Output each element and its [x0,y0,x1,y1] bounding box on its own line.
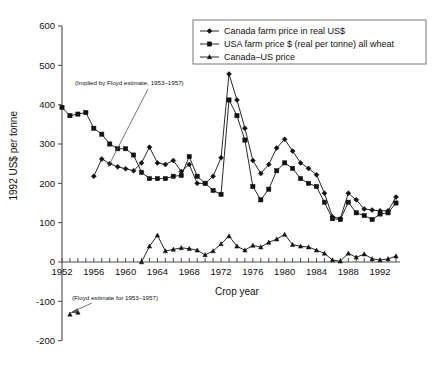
data-point-square [298,176,302,180]
data-point-diamond [147,145,152,150]
x-axis-tick-label: 1988 [338,266,359,277]
data-point-square [108,142,112,146]
data-point-triangle [251,243,255,247]
data-point-square [338,217,342,221]
data-point-diamond [227,71,232,76]
data-point-diamond [290,149,295,154]
chart-legend: Canada farm price in real US$USA farm pr… [193,20,426,64]
data-point-square [60,105,64,109]
series-2 [60,98,398,222]
y-axis-tick-label: 100 [39,217,55,228]
data-point-triangle [203,253,207,257]
data-point-square [100,132,104,136]
data-point-diamond [242,126,247,131]
data-point-square [219,192,223,196]
data-point-square [139,170,143,174]
data-point-triangle [346,251,350,255]
y-axis-tick-label: 400 [39,99,55,110]
x-axis-tick-label: 1952 [51,266,72,277]
data-point-triangle [362,252,366,256]
annotation-implied-floyd: (Implied by Floyd estimate, 1953–1957) [75,79,184,86]
x-axis-tick-label: 1992 [370,266,391,277]
data-point-square [362,213,366,217]
data-point-triangle [155,233,159,237]
data-point-triangle [394,254,398,258]
y-axis-tick-label: 500 [39,60,55,71]
y-axis-tick-label: -200 [36,335,55,346]
data-point-square [346,200,350,204]
data-point-square [155,176,159,180]
data-point-diamond [163,162,168,167]
data-point-square [123,147,127,151]
data-point-diamond [394,195,399,200]
data-point-diamond [123,166,128,171]
data-point-diamond [91,174,96,179]
annotation-leader-line [108,89,148,167]
data-point-square [76,112,80,116]
legend-label-3: Canada–US price [224,52,295,62]
data-point-square [84,110,88,114]
data-point-square [259,198,263,202]
legend-label-2: USA farm price $ (real per tonne) all wh… [224,39,395,49]
x-axis-tick-label: 1960 [115,266,136,277]
data-point-square [275,169,279,173]
data-point-square [306,181,310,185]
x-axis-tick-label: 1968 [179,266,200,277]
data-point-triangle [275,237,279,241]
data-point-diamond [155,160,160,165]
data-point-diamond [234,97,239,102]
series-1 [91,71,398,221]
data-point-square [68,114,72,118]
data-point-square [211,188,215,192]
x-axis-tick-label: 1964 [147,266,168,277]
data-point-triangle [282,232,286,236]
x-axis-tick-label: 1956 [83,266,104,277]
data-point-square [354,211,358,215]
data-point-triangle [227,234,231,238]
data-point-square [171,174,175,178]
annotation-arrow-head [70,308,78,313]
data-point-square [243,138,247,142]
data-point-square [322,200,326,204]
x-axis-title: Crop year [215,286,260,297]
price-comparison-chart: 6005004003002001000-100-2001992 US$ per … [0,0,446,367]
series-line [94,74,396,219]
data-point-square [207,42,211,46]
data-point-square [163,176,167,180]
data-point-triangle [243,248,247,252]
annotation-arrow [70,303,92,313]
x-axis-tick-label: 1972 [210,266,231,277]
data-point-triangle [370,257,374,261]
data-point-square [330,217,334,221]
data-point-square [131,153,135,157]
data-point-square [386,211,390,215]
data-point-square [227,98,231,102]
data-point-diamond [195,181,200,186]
data-point-diamond [370,208,375,213]
y-axis-title: 1992 US$ per tonne [8,111,19,201]
data-point-square [267,187,271,191]
annotation-floyd-estimate: (Floyd estimate for 1953–1957) [72,294,158,301]
data-point-square [179,173,183,177]
data-point-diamond [99,156,104,161]
data-point-square [203,181,207,185]
data-point-diamond [322,191,327,196]
data-point-square [394,201,398,205]
data-point-square [370,217,374,221]
y-axis-tick-label: 600 [39,20,55,31]
data-point-diamond [250,158,255,163]
data-point-square [283,161,287,165]
y-axis-tick-label: -100 [36,296,55,307]
data-point-square [290,166,294,170]
y-axis-tick-label: 200 [39,178,55,189]
data-point-square [147,176,151,180]
data-point-diamond [115,164,120,169]
x-axis-tick-label: 1984 [306,266,327,277]
chart-container: 6005004003002001000-100-2001992 US$ per … [0,0,446,367]
y-axis-tick-label: 300 [39,138,55,149]
data-point-square [187,154,191,158]
data-point-square [251,184,255,188]
x-axis-tick-label: 1980 [274,266,295,277]
data-point-square [378,212,382,216]
data-point-diamond [219,155,224,160]
